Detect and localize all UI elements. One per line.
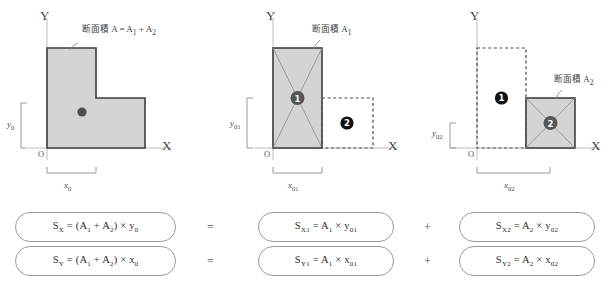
y-axis-label: Y [470,8,480,24]
dim-label-y02: y02 [432,128,443,140]
marker-one-label: 1 [499,93,505,103]
marker-two-label: 2 [548,119,554,129]
operator-plus-row2: + [424,254,431,269]
formula-pill-sy[interactable]: SY = (A1 + A2) × x0 [15,246,176,276]
callout-cjk-text: 断面積 [312,24,339,34]
marker-one-label: 1 [295,94,301,104]
y01-bracket [247,98,253,148]
callout-cjk-text: 断面積 [82,24,109,34]
x-axis-label: X [388,138,398,154]
x02-bracket [477,167,550,173]
diagram-root: Y X O 断面積 A = A1 + A2 y0 x0 1 2 [0,0,610,292]
y-axis-label: Y [266,8,276,24]
callout-cjk-text: 断面積 [554,74,581,84]
panel-combined-section: Y X O 断面積 A = A1 + A2 y0 x0 [0,0,200,205]
operator-plus-row1: + [424,220,431,235]
panel-a2-section: 1 2 Y X O 断面積 A2 y02 x02 [410,0,610,205]
formula-pill-sy1[interactable]: SY1 = A1 × x01 [258,246,394,276]
y0-bracket [21,103,27,148]
x0-bracket [47,167,96,173]
formula-sx1-text: SX1 = A1 × y01 [295,220,357,234]
formula-sx2-text: SX2 = A2 × y02 [496,220,558,234]
l-shape-region [47,48,145,148]
formula-pill-sx2[interactable]: SX2 = A2 × y02 [459,212,595,242]
panel-a1-section: 1 2 Y X O 断面積 A1 y01 x01 [200,0,400,205]
x-axis-label: X [591,138,601,154]
formula-sy2-text: SY2 = A2 × x02 [496,254,558,268]
x01-bracket [273,167,322,173]
y-axis-label: Y [40,8,50,24]
callout-math-text: A2 [583,74,593,84]
y02-bracket [450,123,456,148]
dim-label-x02: x02 [504,180,515,192]
origin-label: O [38,149,44,159]
x-axis-label: X [162,138,172,154]
origin-label: O [264,149,270,159]
panel-a1-graphic: 1 2 [200,0,410,205]
dim-label-y01: y01 [230,118,241,130]
marker-two-label: 2 [344,118,350,128]
panel-a2-graphic: 1 2 [410,0,610,205]
formula-sy-text: SY = (A1 + A2) × x0 [53,254,139,268]
callout-label-a1: 断面積 A1 [312,22,352,37]
dim-label-x0: x0 [64,180,71,192]
callout-math-text: A = A1 + A2 [111,24,156,34]
callout-math-text: A1 [341,24,351,34]
formula-pill-sx1[interactable]: SX1 = A1 × y01 [258,212,394,242]
origin-label: O [468,149,474,159]
callout-label-combined: 断面積 A = A1 + A2 [82,22,156,37]
formula-pill-sx[interactable]: SX = (A1 + A2) × y0 [15,212,176,242]
formula-pill-sy2[interactable]: SY2 = A2 × x02 [459,246,595,276]
formula-sx-text: SX = (A1 + A2) × y0 [53,220,139,234]
operator-equals-row1: = [207,220,214,235]
dim-label-y0: y0 [7,119,14,131]
centroid-dot [77,107,86,116]
dim-label-x01: x01 [288,180,299,192]
operator-equals-row2: = [207,254,214,269]
callout-label-a2: 断面積 A2 [554,72,594,87]
formula-sy1-text: SY1 = A1 × x01 [295,254,357,268]
